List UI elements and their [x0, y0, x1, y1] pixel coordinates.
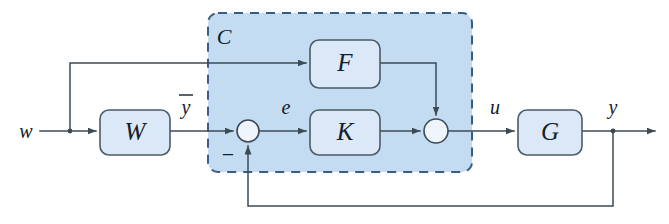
junction-dot-w-branch — [68, 129, 73, 134]
block-G[interactable]: G — [518, 110, 582, 155]
block-F-label: F — [336, 49, 353, 76]
summing-junction-control-shape — [424, 119, 448, 143]
block-G-label: G — [541, 118, 559, 145]
control-block-diagram: C W F K G — [0, 0, 669, 224]
signal-label-ybar-text: y — [180, 96, 191, 119]
block-F[interactable]: F — [310, 40, 380, 88]
block-diagram-canvas: C W F K G — [0, 0, 669, 224]
controller-group-label: C — [217, 24, 232, 49]
summing-junction-minus-sign: − — [222, 142, 234, 167]
signal-label-u: u — [490, 96, 500, 118]
signal-label-e: e — [282, 96, 291, 118]
block-K[interactable]: K — [310, 110, 380, 155]
signal-label-w: w — [19, 120, 33, 142]
junction-dot-y-branch — [611, 129, 616, 134]
block-W-label: W — [125, 118, 148, 145]
summing-junction-control[interactable] — [424, 119, 448, 143]
summing-junction-error-shape — [237, 120, 259, 142]
block-W[interactable]: W — [100, 110, 170, 155]
signal-label-y: y — [607, 96, 618, 119]
signal-label-ybar: y — [179, 95, 193, 119]
block-K-label: K — [336, 118, 355, 145]
